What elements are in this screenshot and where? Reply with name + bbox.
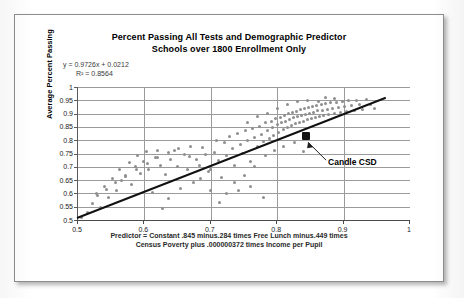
x-axis-tick-label: 1	[394, 226, 424, 233]
x-axis-tick-label: 0.8	[261, 226, 291, 233]
y-axis-tick-label: 0.55	[43, 203, 73, 210]
r-squared-value: R² = 0.8564	[63, 69, 129, 78]
x-axis-tick-label: 0.5	[62, 226, 92, 233]
x-axis-tick-mark	[77, 220, 78, 224]
x-axis-tick-mark	[409, 220, 410, 224]
y-axis-tick-label: 0.85	[43, 123, 73, 130]
regression-annotation: y = 0.9726x + 0.0212 R² = 0.8564	[63, 60, 129, 78]
highlight-marker-candle-csd[interactable]	[302, 132, 310, 140]
chart-subtitle: Schools over 1800 Enrollment Only	[15, 44, 443, 54]
y-axis-tick-label: 0.75	[43, 150, 73, 157]
callout-label-candle-csd: Candle CSD	[328, 157, 377, 167]
y-axis-tick-label: 0.5	[43, 217, 73, 224]
regression-equation: y = 0.9726x + 0.0212	[63, 60, 129, 69]
y-axis-tick-label: 0.9	[43, 110, 73, 117]
footnote-line-2: Census Poverty plus .000000372 times Inc…	[15, 240, 443, 249]
x-axis-tick-label: 0.9	[328, 226, 358, 233]
y-axis-tick-label: 0.95	[43, 97, 73, 104]
x-axis-tick-label: 0.6	[128, 226, 158, 233]
y-axis-tick-label: 0.7	[43, 163, 73, 170]
trendline	[77, 87, 409, 220]
y-axis-tick-label: 0.8	[43, 137, 73, 144]
chart-frame: Percent Passing All Tests and Demographi…	[14, 14, 444, 282]
y-axis-tick-label: 1	[43, 84, 73, 91]
chart-title: Percent Passing All Tests and Demographi…	[15, 32, 443, 42]
y-axis-tick-label: 0.6	[43, 190, 73, 197]
x-axis-tick-label: 0.7	[195, 226, 225, 233]
x-axis-line	[77, 220, 410, 221]
x-axis-tick-mark	[343, 220, 344, 224]
y-axis-tick-label: 0.65	[43, 177, 73, 184]
scanned-page-background: Percent Passing All Tests and Demographi…	[0, 0, 464, 298]
x-axis-tick-mark	[276, 220, 277, 224]
footnote: Predictor = Constant .845 minus.284 time…	[15, 231, 443, 249]
x-axis-tick-mark	[210, 220, 211, 224]
x-axis-tick-mark	[143, 220, 144, 224]
